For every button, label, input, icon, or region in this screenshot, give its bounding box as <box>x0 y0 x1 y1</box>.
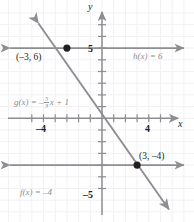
tick-label-y-neg5: –5 <box>83 190 93 200</box>
fraction-numerator: 5 <box>44 96 49 103</box>
fraction-five-thirds: 53 <box>44 96 49 111</box>
coordinate-graph-figure: y x –4 4 5 –5 (–3, 6) (3, –4) h(x) = 6 f… <box>0 0 194 222</box>
function-label-f: f(x) = –4 <box>20 188 52 197</box>
function-label-h: h(x) = 6 <box>133 52 163 61</box>
point-marker-upper-left <box>63 45 70 52</box>
fraction-denominator: 3 <box>44 102 49 110</box>
tick-label-x-neg4: –4 <box>36 124 46 134</box>
tick-label-x-pos4: 4 <box>145 124 150 134</box>
y-axis-label: y <box>88 2 92 12</box>
x-axis-label: x <box>178 119 182 129</box>
point-marker-lower-right <box>134 162 141 169</box>
tick-label-y-pos5: 5 <box>88 44 93 54</box>
point-label-lower-right: (3, –4) <box>139 152 164 162</box>
point-label-upper-left: (–3, 6) <box>16 53 41 63</box>
function-label-g-prefix: g(x) = – <box>14 97 44 107</box>
function-label-g: g(x) = –53x + 1 <box>14 96 69 111</box>
x-axis <box>8 114 178 122</box>
function-label-g-suffix: x + 1 <box>50 97 69 107</box>
